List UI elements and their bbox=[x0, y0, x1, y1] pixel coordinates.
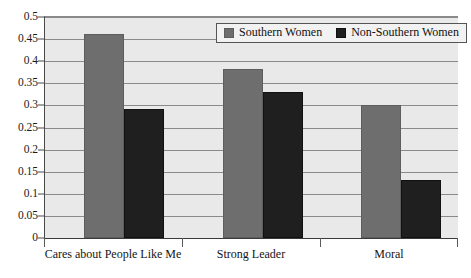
x-axis: Cares about People Like Me Strong Leader… bbox=[44, 248, 458, 272]
legend-label: Southern Women bbox=[239, 26, 322, 39]
bar-nonsouthern-cares[interactable] bbox=[124, 109, 164, 238]
y-tick-label: 0.3 bbox=[24, 100, 38, 112]
bar-southern-cares[interactable] bbox=[84, 34, 124, 238]
y-tick-label: 0.45 bbox=[18, 33, 38, 45]
x-tick-mark bbox=[457, 238, 458, 247]
x-tick-mark bbox=[320, 238, 321, 247]
y-tick-label: 0.05 bbox=[18, 210, 38, 222]
x-tick-mark bbox=[44, 238, 45, 247]
gray-square-swatch-icon bbox=[224, 28, 234, 38]
bar-southern-strong-leader[interactable] bbox=[223, 69, 263, 238]
bars-layer bbox=[45, 17, 458, 238]
x-tick-label-cares: Cares about People Like Me bbox=[45, 248, 182, 261]
y-tick-label: 0.15 bbox=[18, 166, 38, 178]
y-tick-label: 0.5 bbox=[24, 11, 38, 23]
bar-chart: 0.5 0.45 0.4 0.35 0.3 0.25 0.2 0.15 0.1 … bbox=[0, 0, 471, 278]
legend-entry-southern-women[interactable]: Southern Women bbox=[224, 26, 322, 39]
x-tick-mark bbox=[182, 238, 183, 247]
y-tick-label: 0.4 bbox=[24, 55, 38, 67]
plot-area bbox=[44, 16, 458, 238]
y-axis: 0.5 0.45 0.4 0.35 0.3 0.25 0.2 0.15 0.1 … bbox=[0, 0, 44, 278]
bar-nonsouthern-strong-leader[interactable] bbox=[263, 92, 303, 239]
bar-southern-moral[interactable] bbox=[361, 105, 401, 238]
legend-label: Non-Southern Women bbox=[351, 26, 459, 39]
bar-nonsouthern-moral[interactable] bbox=[401, 180, 441, 238]
y-tick-label: 0.2 bbox=[24, 144, 38, 156]
y-tick-label: 0.25 bbox=[18, 122, 38, 134]
legend: Southern Women Non-Southern Women bbox=[216, 23, 467, 43]
black-square-swatch-icon bbox=[336, 28, 346, 38]
y-tick-label: 0.1 bbox=[24, 188, 38, 200]
y-tick-label: 0.35 bbox=[18, 78, 38, 90]
legend-entry-non-southern-women[interactable]: Non-Southern Women bbox=[336, 26, 459, 39]
x-tick-label-moral: Moral bbox=[374, 248, 403, 261]
x-tick-label-strong-leader: Strong Leader bbox=[217, 248, 285, 261]
